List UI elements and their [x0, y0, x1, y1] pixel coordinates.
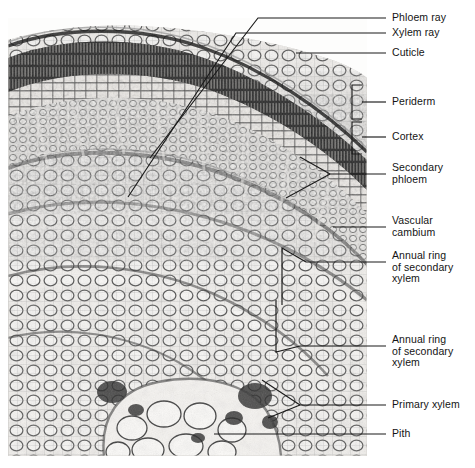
label-pith: Pith — [392, 428, 411, 440]
label-secondary-phloem: Secondary phloem — [392, 162, 443, 185]
leader-annual-ring-outer — [282, 248, 386, 305]
label-cuticle: Cuticle — [392, 47, 425, 59]
leader-phloem-ray — [150, 18, 386, 158]
label-cortex: Cortex — [392, 131, 424, 143]
label-annual-ring-inner: Annual ring of secondary xylem — [392, 334, 453, 369]
label-primary-xylem: Primary xylem — [392, 399, 460, 411]
bracket-cortex — [352, 122, 386, 154]
label-periderm: Periderm — [392, 96, 435, 108]
bracket-periderm — [352, 85, 386, 119]
leader-annual-ring-inner — [276, 300, 386, 352]
leader-secondary-phloem — [286, 157, 386, 198]
leader-xylem-ray — [128, 33, 386, 197]
label-phloem-ray: Phloem ray — [392, 12, 446, 24]
figure-woody-stem-cross-section: Phloem ray Xylem ray Cuticle Periderm Co… — [0, 0, 475, 468]
leader-primary-xylem — [262, 380, 386, 418]
label-annual-ring-outer: Annual ring of secondary xylem — [392, 250, 453, 285]
label-xylem-ray: Xylem ray — [392, 27, 440, 39]
label-vascular-cambium: Vascular cambium — [392, 215, 435, 238]
